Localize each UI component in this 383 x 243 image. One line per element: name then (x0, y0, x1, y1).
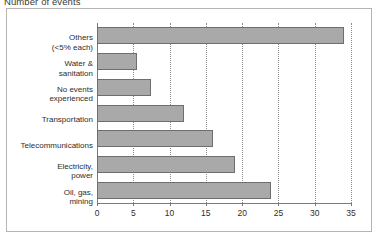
x-tick-30 (315, 203, 316, 206)
category-label: Oil, gas,mining (9, 188, 93, 207)
bar-row (97, 182, 271, 199)
category-label: Electricity,power (9, 162, 93, 181)
bar (97, 53, 137, 70)
category-label-line: No events (9, 85, 93, 95)
category-label-line: sanitation (9, 69, 93, 79)
category-label: Telecommunications (9, 141, 93, 151)
gridline-35 (351, 23, 352, 203)
bar (97, 182, 271, 199)
category-label-line: mining (9, 197, 93, 207)
x-tick-label: 10 (165, 208, 174, 218)
plot-area (97, 23, 351, 203)
x-tick-0 (97, 203, 98, 206)
category-label-line: power (9, 171, 93, 181)
category-label-line: experienced (9, 94, 93, 104)
bar-row (97, 53, 137, 70)
x-tick-35 (351, 203, 352, 206)
bar-row (97, 130, 213, 147)
x-tick-label: 20 (237, 208, 246, 218)
bar-row (97, 27, 344, 44)
bar (97, 156, 235, 173)
bar (97, 27, 344, 44)
x-tick-label: 35 (346, 208, 355, 218)
chart-frame: Others(<5% each)Water &sanitationNo even… (6, 8, 372, 232)
x-tick-label: 0 (95, 208, 100, 218)
bar-row (97, 105, 184, 122)
x-tick-10 (170, 203, 171, 206)
category-label-line: Telecommunications (9, 141, 93, 151)
x-tick-label: 25 (274, 208, 283, 218)
category-label: Water &sanitation (9, 59, 93, 78)
bar (97, 105, 184, 122)
chart-title: Number of events (4, 0, 81, 7)
category-label: Others(<5% each) (9, 33, 93, 52)
x-tick-label: 30 (310, 208, 319, 218)
category-label-line: (<5% each) (9, 43, 93, 53)
x-tick-label: 15 (201, 208, 210, 218)
bar-row (97, 79, 151, 96)
category-axis-labels: Others(<5% each)Water &sanitationNo even… (7, 31, 93, 211)
x-tick-label: 5 (131, 208, 136, 218)
category-label-line: Water & (9, 59, 93, 69)
bar (97, 79, 151, 96)
category-label-line: Oil, gas, (9, 188, 93, 198)
x-tick-20 (242, 203, 243, 206)
x-tick-5 (133, 203, 134, 206)
category-label: No eventsexperienced (9, 85, 93, 104)
bar (97, 130, 213, 147)
category-label-line: Others (9, 33, 93, 43)
bar-series (97, 23, 351, 203)
category-label-line: Transportation (9, 115, 93, 125)
bar-row (97, 156, 235, 173)
x-tick-25 (278, 203, 279, 206)
category-label: Transportation (9, 115, 93, 125)
category-label-line: Electricity, (9, 162, 93, 172)
x-tick-15 (206, 203, 207, 206)
